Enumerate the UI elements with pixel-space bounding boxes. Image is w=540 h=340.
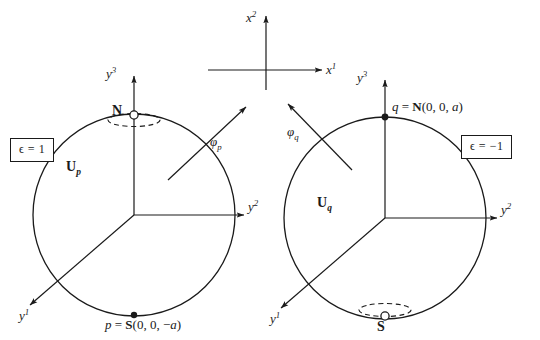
right-south-pole-label: S	[377, 320, 385, 334]
right-phi-map-label: φq	[287, 125, 299, 141]
x2-axis-label: x2	[246, 10, 256, 24]
figure-canvas	[0, 0, 540, 340]
left-point-label: p = S(0, 0, −a)	[105, 318, 181, 331]
left-y1-axis-label: y1	[19, 308, 29, 322]
left-phi-arrow	[168, 107, 246, 180]
stereographic-projection-figure: x2 x1 ϵ = 1 Up y3 y2 y1 N p = S(0, 0, −a…	[0, 0, 540, 340]
left-y1-axis	[30, 215, 134, 305]
right-y1-axis	[281, 218, 385, 308]
left-chart-label: Up	[66, 160, 81, 177]
projection-plane-axes	[208, 16, 322, 90]
right-y1-axis-label: y1	[270, 311, 280, 325]
x1-axis-label: x1	[326, 62, 336, 76]
left-y2-axis-label: y2	[248, 199, 258, 213]
right-point-filled-marker	[382, 114, 389, 121]
left-epsilon-box: ϵ = 1	[10, 138, 54, 162]
left-pole-open-marker	[130, 111, 138, 119]
left-chart-group	[30, 76, 246, 318]
right-point-label: q = N(0, 0, a)	[392, 100, 463, 113]
right-chart-label: Uq	[317, 196, 332, 213]
right-y3-axis-label: y3	[357, 70, 367, 84]
right-chart-group	[281, 80, 497, 320]
left-y3-axis-label: y3	[106, 66, 116, 80]
right-y2-axis-label: y2	[501, 202, 511, 216]
left-phi-map-label: φp	[210, 135, 222, 151]
right-epsilon-box: ϵ = −1	[461, 135, 512, 159]
left-north-pole-label: N	[112, 104, 122, 118]
